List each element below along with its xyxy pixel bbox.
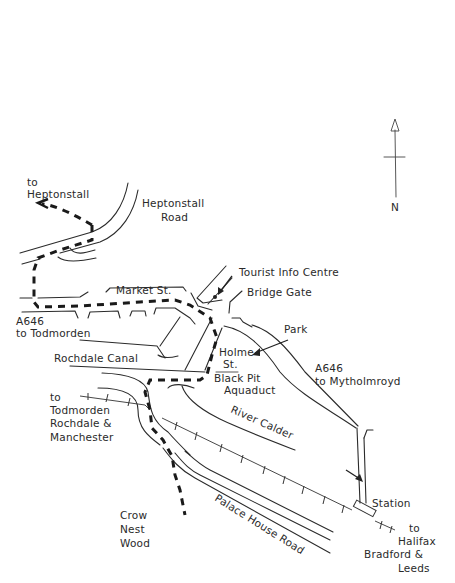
label-holme-st: HolmeSt. (219, 346, 254, 370)
label-a646-mytholmroyd: A646to Mytholmroyd (315, 362, 401, 387)
label-tourist-info: Tourist Info Centre (238, 266, 339, 278)
north-arrow-icon (384, 119, 405, 197)
label-park: Park (284, 323, 308, 335)
palace-house-road (163, 448, 333, 553)
label-bridge-gate: Bridge Gate (247, 286, 312, 298)
label-to-heptonstall: toHeptonstall (27, 176, 89, 200)
label-crow-nest-wood: CrowNestWood (120, 509, 150, 549)
walking-route-map: N (0, 0, 455, 583)
label-black-pit-aquaduct: Black PitAquaduct (214, 372, 276, 396)
label-heptonstall-road: HeptonstallRoad (142, 197, 204, 223)
label-to-todmorden-rochdale: toTodmordenRochdale &Manchester (49, 391, 114, 443)
label-station: Station (372, 497, 411, 509)
label-river-calder: River Calder (229, 403, 296, 441)
compass-label: N (391, 201, 399, 213)
label-a646-todmorden: A646to Todmorden (16, 315, 91, 339)
label-palace-house-road: Palace House Road (213, 492, 307, 557)
label-rochdale-canal: Rochdale Canal (54, 352, 138, 364)
label-market-st: Market St. (116, 284, 172, 296)
label-to-halifax: toHalifaxBradford &Leeds (364, 522, 436, 574)
